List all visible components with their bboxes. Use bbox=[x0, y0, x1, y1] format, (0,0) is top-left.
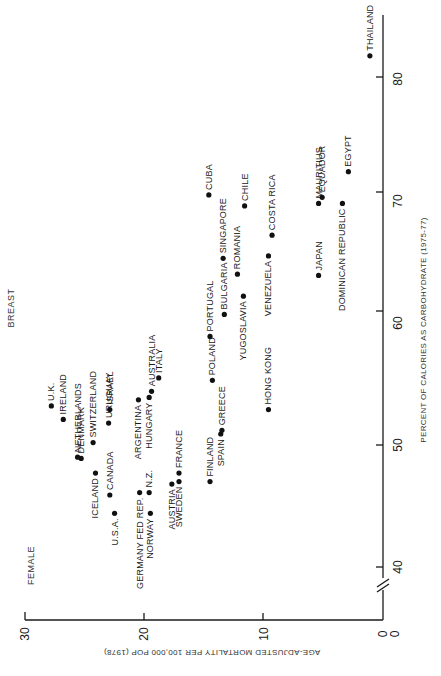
data-point: U.S.A. bbox=[110, 511, 120, 546]
y-tick-label: 30 bbox=[18, 627, 32, 641]
point-label: THAILAND bbox=[365, 4, 375, 50]
point-marker bbox=[320, 195, 325, 200]
data-point: ARGENTINA bbox=[133, 397, 143, 459]
point-label: EGYPT bbox=[343, 135, 353, 167]
point-marker bbox=[316, 201, 321, 206]
data-point: FRANCE bbox=[174, 430, 184, 476]
point-marker bbox=[242, 203, 247, 208]
point-marker bbox=[148, 511, 153, 516]
point-marker bbox=[266, 253, 271, 258]
point-marker bbox=[107, 407, 112, 412]
data-point: SWEDEN bbox=[174, 479, 184, 527]
x-axis-title: PERCENT OF CALORIES AS CARBOHYDRATE (197… bbox=[419, 217, 428, 442]
point-marker bbox=[221, 256, 226, 261]
y-tick-label: 10 bbox=[257, 627, 271, 641]
point-marker bbox=[206, 192, 211, 197]
point-label: NORWAY bbox=[145, 518, 155, 559]
y-axis-title: AGE-ADJUSTED MORTALITY PER 100,000 POP (… bbox=[104, 648, 321, 657]
point-label: N.Z. bbox=[144, 470, 154, 488]
point-label: SWITZERLAND bbox=[88, 371, 98, 438]
point-marker bbox=[137, 490, 142, 495]
data-point: EGYPT bbox=[343, 135, 353, 174]
data-point: DENMARK bbox=[76, 407, 86, 461]
point-marker bbox=[169, 481, 174, 486]
point-label: DOMINICAN REPUBLIC bbox=[337, 208, 347, 311]
data-point: BULGARIA bbox=[219, 262, 229, 317]
chart-title: BREAST bbox=[6, 288, 16, 327]
data-point: DOMINICAN REPUBLIC bbox=[337, 201, 347, 311]
data-point: HUNGARY bbox=[144, 395, 154, 449]
point-label: ISRAEL bbox=[105, 371, 115, 404]
data-point: CHILE bbox=[240, 173, 250, 208]
data-point: ROMANIA bbox=[232, 226, 242, 277]
data-point: SINGAPORE bbox=[218, 198, 228, 261]
data-point: THAILAND bbox=[365, 4, 375, 58]
data-point: GERMANY FED REP. bbox=[135, 490, 145, 589]
y-tick-label: 20 bbox=[137, 627, 151, 641]
point-label: HONG KONG bbox=[263, 347, 273, 405]
point-label: CANADA bbox=[105, 451, 115, 490]
point-label: VENEZUELA bbox=[263, 261, 273, 316]
point-marker bbox=[316, 273, 321, 278]
point-label: YUGOSLAVIA bbox=[238, 301, 248, 360]
data-point: COSTA RICA bbox=[267, 174, 277, 237]
chart-subtitle: FEMALE bbox=[26, 546, 36, 585]
point-label: U.K. bbox=[46, 383, 56, 401]
point-label: HUNGARY bbox=[144, 402, 154, 448]
x-tick-labels: 04050607080 bbox=[388, 72, 405, 637]
point-marker bbox=[346, 169, 351, 174]
data-point: YUGOSLAVIA bbox=[238, 294, 248, 361]
point-marker bbox=[49, 403, 54, 408]
point-label: GREECE bbox=[217, 386, 227, 425]
data-point: N.Z. bbox=[144, 470, 154, 495]
point-label: BULGARIA bbox=[219, 262, 229, 309]
point-marker bbox=[241, 294, 246, 299]
point-marker bbox=[269, 233, 274, 238]
point-marker bbox=[149, 389, 154, 394]
point-label: ROMANIA bbox=[232, 226, 242, 269]
data-point: NORWAY bbox=[145, 511, 155, 559]
data-point: SPAIN bbox=[216, 431, 226, 466]
x-axis-carbohydrate bbox=[376, 15, 389, 620]
data-point: ICELAND bbox=[90, 470, 100, 518]
point-marker bbox=[207, 479, 212, 484]
x-tick-label: 40 bbox=[391, 560, 405, 574]
point-marker bbox=[91, 440, 96, 445]
y-axis-mortality bbox=[25, 612, 383, 620]
point-label: SWEDEN bbox=[174, 487, 184, 528]
point-marker bbox=[147, 395, 152, 400]
point-marker bbox=[112, 511, 117, 516]
y-tick-labels: 0102030 bbox=[18, 627, 390, 641]
point-label: ICELAND bbox=[90, 478, 100, 519]
data-point: IRELAND bbox=[58, 374, 68, 422]
point-marker bbox=[367, 53, 372, 58]
x-tick-label: 50 bbox=[391, 438, 405, 452]
point-label: IRELAND bbox=[58, 374, 68, 415]
data-points: U.K.IRELANDNETHERLANDSDENMARKSWITZERLAND… bbox=[46, 4, 375, 589]
point-marker bbox=[219, 428, 224, 433]
point-label: FINLAND bbox=[205, 436, 215, 476]
data-point: JAPAN bbox=[314, 241, 324, 278]
point-marker bbox=[266, 407, 271, 412]
point-label: JAPAN bbox=[314, 241, 324, 270]
point-marker bbox=[176, 470, 181, 475]
data-point: HONG KONG bbox=[263, 347, 273, 412]
data-point: PORTUGAL bbox=[205, 280, 215, 339]
point-marker bbox=[235, 272, 240, 277]
point-label: GERMANY FED REP. bbox=[135, 498, 145, 589]
data-point: FINLAND bbox=[205, 436, 215, 484]
point-label: PORTUGAL bbox=[205, 280, 215, 331]
point-marker bbox=[79, 456, 84, 461]
point-label: ITALY bbox=[154, 348, 164, 373]
point-marker bbox=[176, 479, 181, 484]
data-point: SWITZERLAND bbox=[88, 371, 98, 446]
point-marker bbox=[340, 201, 345, 206]
point-marker bbox=[136, 397, 141, 402]
data-point: VENEZUELA bbox=[263, 253, 273, 316]
point-marker bbox=[93, 470, 98, 475]
point-label: EQUADOR bbox=[317, 145, 327, 192]
point-marker bbox=[107, 492, 112, 497]
x-tick-label: 80 bbox=[391, 72, 405, 86]
data-point: EQUADOR bbox=[317, 145, 327, 200]
point-label: FRANCE bbox=[174, 430, 184, 468]
